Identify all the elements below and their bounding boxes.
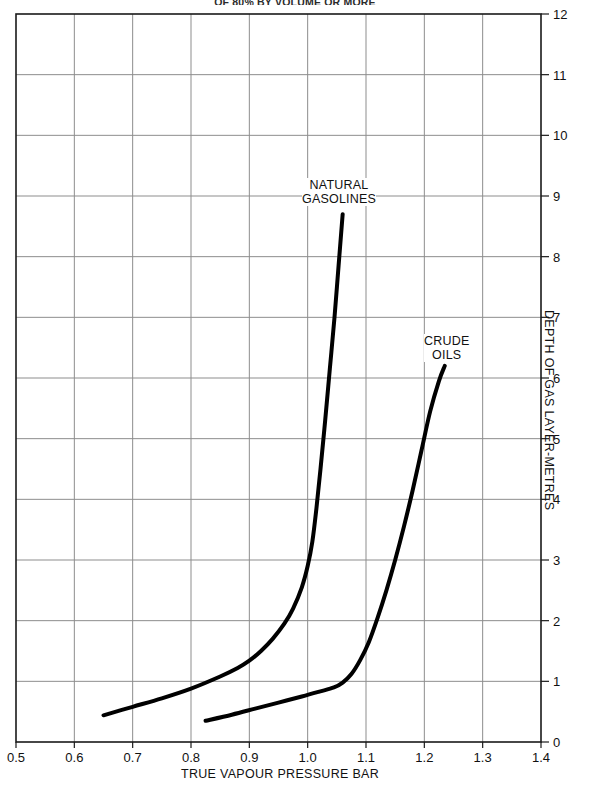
x-tick-label: 1.0 xyxy=(299,750,317,765)
x-tick-label: 0.8 xyxy=(182,750,200,765)
data-curves xyxy=(104,214,445,721)
chart-root: OF 80% BY VOLUME OR MORE 0.50.60.70.80.9… xyxy=(0,0,590,790)
tick-marks xyxy=(16,14,549,748)
x-tick-label: 1.1 xyxy=(357,750,375,765)
curve-label-crude-oils: CRUDE OILS xyxy=(424,334,469,362)
y-axis-title: DEPTH OF GAS LAYER-METRES xyxy=(542,310,556,510)
curve-label-natural-gasolines-line2: GASOLINES xyxy=(302,192,376,206)
y-tick-label: 1 xyxy=(553,674,560,689)
x-tick-label: 0.9 xyxy=(240,750,258,765)
y-tick-label: 9 xyxy=(553,189,560,204)
x-tick-label: 0.5 xyxy=(7,750,25,765)
curve-label-crude-oils-line1: CRUDE xyxy=(424,334,469,348)
x-tick-label: 1.4 xyxy=(532,750,550,765)
y-tick-label: 2 xyxy=(553,613,560,628)
curve-1 xyxy=(104,214,343,715)
curve-label-crude-oils-line2: OILS xyxy=(424,348,469,362)
plot-area xyxy=(0,0,590,790)
curve-label-natural-gasolines: NATURAL GASOLINES xyxy=(302,178,376,206)
y-tick-label: 3 xyxy=(553,553,560,568)
x-tick-label: 0.6 xyxy=(65,750,83,765)
y-tick-label: 10 xyxy=(553,128,567,143)
y-tick-label: 12 xyxy=(553,7,567,22)
y-tick-label: 8 xyxy=(553,249,560,264)
x-axis-title: TRUE VAPOUR PRESSURE BAR xyxy=(0,767,560,781)
y-tick-label: 11 xyxy=(553,67,567,82)
x-tick-label: 0.7 xyxy=(124,750,142,765)
curve-label-natural-gasolines-line1: NATURAL xyxy=(302,178,376,192)
y-tick-label: 0 xyxy=(553,735,560,750)
x-tick-label: 1.3 xyxy=(474,750,492,765)
x-tick-label: 1.2 xyxy=(415,750,433,765)
